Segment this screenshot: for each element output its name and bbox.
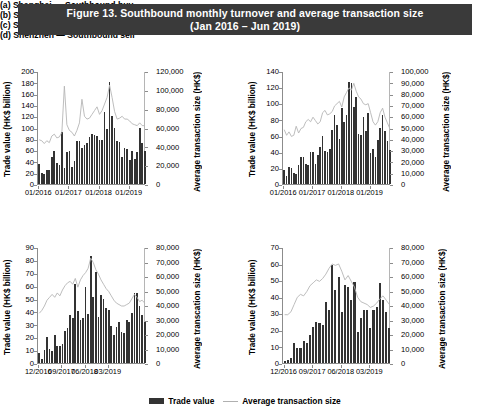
y2-tick-mark-a-4 bbox=[145, 110, 148, 111]
y2-tick-label-c-8: 80,000 bbox=[156, 244, 196, 252]
y2-tick-label-b-8: 80,000 bbox=[401, 91, 445, 99]
line-series-c bbox=[38, 248, 146, 364]
y-tick-label-c-1: 10 bbox=[10, 347, 34, 355]
y-tick-label-d-3: 30 bbox=[255, 310, 279, 318]
y-tick-label-a-7: 140 bbox=[10, 102, 34, 110]
legend-item-trade-value: Trade value bbox=[149, 396, 214, 406]
y-tick-mark-c-4 bbox=[34, 312, 37, 313]
x-tick-label-d-3: 03/2019 bbox=[353, 368, 385, 375]
x-tick-label-a-0: 01/2016 bbox=[22, 189, 54, 196]
avg-transaction-size-line bbox=[285, 264, 390, 315]
y2-tick-mark-b-3 bbox=[390, 151, 393, 152]
y-tick-label-b-1: 20 bbox=[255, 165, 279, 173]
y-tick-mark-d-6 bbox=[279, 265, 282, 266]
x-tick-label-d-2: 06/2018 bbox=[325, 368, 357, 375]
plot-area-d bbox=[282, 248, 390, 364]
y-tick-mark-c-1 bbox=[34, 351, 37, 352]
y2-tick-mark-a-6 bbox=[145, 72, 148, 73]
figure-title-line2: (Jan 2016 – Jun 2019) bbox=[190, 20, 300, 33]
y2-tick-label-b-10: 100,000 bbox=[401, 68, 445, 76]
y2-tick-mark-b-4 bbox=[390, 140, 393, 141]
y2-tick-mark-d-2 bbox=[390, 335, 393, 336]
y-tick-mark-a-2 bbox=[34, 162, 37, 163]
y2-tick-label-c-2: 20,000 bbox=[156, 331, 196, 339]
y-tick-label-c-9: 90 bbox=[10, 244, 34, 252]
y-tick-label-c-7: 70 bbox=[10, 270, 34, 278]
plot-area-c bbox=[37, 248, 145, 364]
y-tick-mark-d-0 bbox=[279, 364, 282, 365]
y-tick-label-c-2: 20 bbox=[10, 334, 34, 342]
y-tick-mark-c-2 bbox=[34, 338, 37, 339]
avg-transaction-size-line bbox=[39, 85, 144, 143]
y2-tick-mark-b-2 bbox=[390, 162, 393, 163]
x-tick-label-b-3: 01/2019 bbox=[354, 189, 386, 196]
x-tick-mark-b-2 bbox=[341, 186, 342, 189]
y-tick-mark-b-4 bbox=[279, 120, 282, 121]
y2-tick-label-c-3: 30,000 bbox=[156, 317, 196, 325]
y2-tick-mark-a-5 bbox=[145, 91, 148, 92]
y-tick-label-a-9: 180 bbox=[10, 80, 34, 88]
y2-tick-mark-b-5 bbox=[390, 129, 393, 130]
x-tick-mark-c-0 bbox=[38, 365, 39, 368]
y-tick-mark-c-7 bbox=[34, 274, 37, 275]
line-series-d bbox=[283, 248, 391, 364]
y-tick-mark-b-1 bbox=[279, 169, 282, 170]
y2-tick-mark-b-9 bbox=[390, 83, 393, 84]
y-tick-mark-b-3 bbox=[279, 137, 282, 138]
y-tick-mark-b-7 bbox=[279, 72, 282, 73]
y-tick-label-a-1: 20 bbox=[10, 170, 34, 178]
y2-tick-mark-d-0 bbox=[390, 364, 393, 365]
avg-transaction-size-line bbox=[39, 258, 144, 313]
y2-tick-label-a-6: 120,000 bbox=[156, 68, 196, 76]
y-tick-label-b-3: 60 bbox=[255, 133, 279, 141]
y-tick-label-d-7: 70 bbox=[255, 244, 279, 252]
y2-tick-mark-c-7 bbox=[145, 263, 148, 264]
x-tick-label-a-2: 01/2018 bbox=[83, 189, 115, 196]
x-tick-label-d-1: 09/2017 bbox=[296, 368, 328, 375]
legend-label-avg-transaction-size: Average transaction size bbox=[242, 396, 340, 406]
y2-tick-label-a-5: 100,000 bbox=[156, 87, 196, 95]
y-tick-label-d-2: 20 bbox=[255, 327, 279, 335]
y2-tick-mark-b-0 bbox=[390, 185, 393, 186]
y2-tick-label-c-1: 10,000 bbox=[156, 346, 196, 354]
y2-tick-label-d-1: 10,000 bbox=[401, 346, 441, 354]
y2-tick-mark-a-2 bbox=[145, 147, 148, 148]
x-tick-mark-d-0 bbox=[284, 365, 285, 368]
y2-tick-label-d-2: 20,000 bbox=[401, 331, 441, 339]
y-tick-mark-a-1 bbox=[34, 174, 37, 175]
figure-legend: Trade value Average transaction size bbox=[0, 396, 490, 406]
y2-tick-label-b-4: 40,000 bbox=[401, 136, 445, 144]
y2-tick-mark-d-4 bbox=[390, 306, 393, 307]
x-tick-mark-b-0 bbox=[283, 186, 284, 189]
x-tick-mark-c-2 bbox=[85, 365, 86, 368]
y2-tick-label-c-5: 50,000 bbox=[156, 288, 196, 296]
y2-tick-mark-c-3 bbox=[145, 321, 148, 322]
y-tick-label-c-8: 80 bbox=[10, 257, 34, 265]
x-tick-label-a-3: 01/2019 bbox=[113, 189, 145, 196]
y-tick-label-b-2: 40 bbox=[255, 149, 279, 157]
y2-tick-mark-c-8 bbox=[145, 248, 148, 249]
y2-tick-label-b-1: 10,000 bbox=[401, 170, 445, 178]
y2-tick-mark-d-6 bbox=[390, 277, 393, 278]
plot-area-b bbox=[282, 72, 390, 185]
x-tick-label-a-1: 01/2017 bbox=[52, 189, 84, 196]
y2-tick-label-c-4: 40,000 bbox=[156, 302, 196, 310]
y-tick-mark-a-5 bbox=[34, 129, 37, 130]
x-tick-mark-b-3 bbox=[370, 186, 371, 189]
y2-tick-mark-c-5 bbox=[145, 292, 148, 293]
figure-title-bar: Figure 13. Southbound monthly turnover a… bbox=[18, 4, 472, 35]
y2-tick-label-d-7: 70,000 bbox=[401, 259, 441, 267]
y-tick-mark-c-9 bbox=[34, 248, 37, 249]
y2-tick-mark-a-0 bbox=[145, 185, 148, 186]
y2-tick-label-b-0: 0 bbox=[401, 181, 445, 189]
y2-tick-label-d-5: 50,000 bbox=[401, 288, 441, 296]
y-tick-mark-c-0 bbox=[34, 364, 37, 365]
y2-tick-mark-c-1 bbox=[145, 350, 148, 351]
y-tick-mark-d-2 bbox=[279, 331, 282, 332]
y2-tick-mark-d-8 bbox=[390, 248, 393, 249]
y-tick-mark-d-4 bbox=[279, 298, 282, 299]
y2-tick-label-b-2: 20,000 bbox=[401, 159, 445, 167]
y2-tick-label-b-9: 90,000 bbox=[401, 80, 445, 88]
line-series-a bbox=[38, 72, 146, 185]
y2-tick-mark-b-6 bbox=[390, 117, 393, 118]
